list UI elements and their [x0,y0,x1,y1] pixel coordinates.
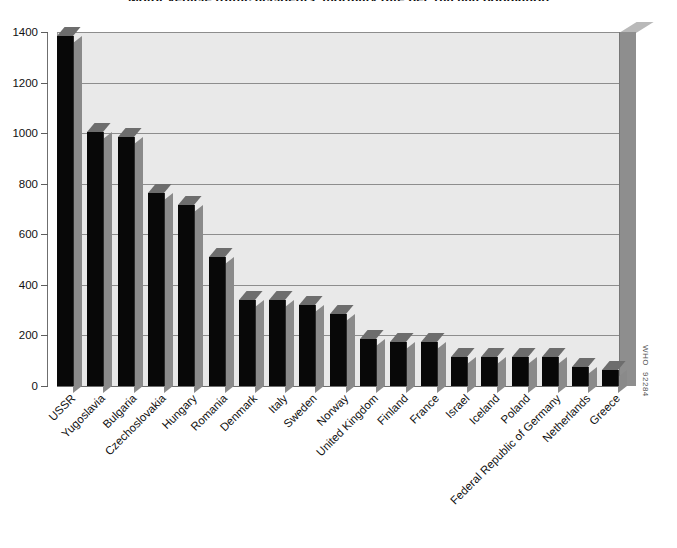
bar[interactable] [512,357,537,386]
gridline [57,133,619,134]
bar-side-face [73,36,82,393]
bar-front-face [148,193,165,386]
bar-front-face [209,257,226,386]
bar-front-face [602,370,619,386]
y-axis-tick [41,386,48,387]
bar-front-face [390,342,407,386]
bar-side-face [376,339,385,393]
bar-front-face [87,132,104,386]
bar-front-face [57,36,74,386]
bar-side-face [437,342,446,393]
bar[interactable] [239,300,264,386]
bar[interactable] [572,367,597,386]
chart-title: Motor vehicle traffic accidents, mortali… [0,0,677,1]
bar[interactable] [299,305,324,386]
bar-front-face [360,339,377,386]
bar-side-face [346,314,355,393]
bar-side-face [406,342,415,393]
bar-front-face [512,357,529,386]
bar[interactable] [87,132,112,386]
y-axis-tick-label: 400 [0,279,38,291]
bar-front-face [481,357,498,386]
bar[interactable] [118,137,143,386]
y-axis-tick-label: 1400 [0,26,38,38]
bar[interactable] [57,36,82,386]
bar[interactable] [421,342,446,386]
bar-front-face [451,357,468,386]
bar[interactable] [360,339,385,386]
watermark-code: 92284 [641,372,650,397]
bar[interactable] [602,370,627,386]
bar-front-face [421,342,438,386]
bar[interactable] [209,257,234,386]
bar[interactable] [542,357,567,386]
x-axis-label: Iceland [467,392,502,427]
bar[interactable] [148,193,173,386]
bar-side-face [225,257,234,393]
x-axis-label: Greece [587,392,622,427]
bar-side-face [164,193,173,393]
bar-front-face [330,314,347,386]
bar[interactable] [451,357,476,386]
bar-front-face [299,305,316,386]
bar-side-face [134,137,143,393]
x-axis-label: Finland [375,392,410,427]
bar[interactable] [178,205,203,386]
bar[interactable] [390,342,415,386]
bar[interactable] [269,300,294,386]
source-watermark: WHO92284 [641,345,650,405]
bar-front-face [178,205,195,386]
bar-side-face [285,300,294,393]
x-axis-label: Italy [266,392,289,415]
plot-right-wall [619,32,636,386]
bar-front-face [572,367,589,386]
bar-front-face [118,137,135,386]
bar-side-face [194,205,203,393]
plot-area [47,32,636,386]
bar[interactable] [481,357,506,386]
bar-side-face [315,305,324,393]
bar-front-face [269,300,286,386]
y-axis-tick-label: 1000 [0,127,38,139]
watermark-source: WHO [641,345,650,366]
y-axis-tick-label: 600 [0,228,38,240]
gridline [57,32,619,33]
y-axis-tick-label: 800 [0,178,38,190]
bar-side-face [255,300,264,393]
x-axis-label: France [407,392,441,426]
bar[interactable] [330,314,355,386]
x-axis-labels: USSRYugoslaviaBulgariaCzechoslovakiaHung… [0,388,677,538]
y-axis-tick-label: 1200 [0,77,38,89]
gridline [57,83,619,84]
y-axis-tick-label: 200 [0,329,38,341]
bar-front-face [542,357,559,386]
bar-front-face [239,300,256,386]
bar-side-face [103,132,112,393]
